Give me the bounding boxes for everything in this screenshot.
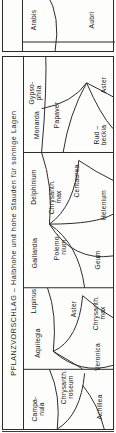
page-bottom-rule [2, 431, 114, 432]
zone-label-aubrieta: Aubri [88, 12, 95, 29]
plan-title-strip: PFLANZVORSCHLAG – Halbhohe und hohe Stau… [3, 57, 24, 429]
zone-label-arabis: Arabis [30, 10, 37, 31]
plan-drawing-canvas: Gypso- phila Papaver Aster Rud – beckia … [24, 57, 113, 429]
fragment-bed-outlines [3, 0, 115, 52]
planting-plan-page: Arabis Aubri PFLANZVORSCHLAG – Halbhohe … [0, 0, 116, 433]
bed-outline-arcs [24, 57, 113, 429]
planting-plan-panel: PFLANZVORSCHLAG – Halbhohe und hohe Stau… [2, 56, 114, 430]
page-title: PFLANZVORSCHLAG – Halbhohe und hohe Stau… [9, 110, 18, 375]
plan-fragment-panel: Arabis Aubri [2, 0, 114, 52]
